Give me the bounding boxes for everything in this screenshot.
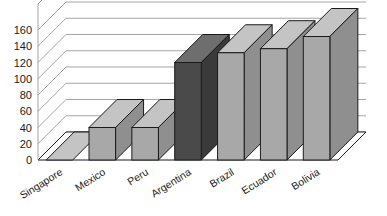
bar-chart: 020406080100120140160 SingaporeMexicoPer… bbox=[0, 0, 387, 216]
y-tick-label: 60 bbox=[20, 105, 32, 117]
y-tick-label: 120 bbox=[14, 57, 32, 69]
y-tick-label: 100 bbox=[14, 73, 32, 85]
y-tick-label: 0 bbox=[26, 154, 32, 166]
y-tick-label: 20 bbox=[20, 138, 32, 150]
y-tick-label: 40 bbox=[20, 122, 32, 134]
bar-bolivia bbox=[303, 9, 358, 161]
chart-canvas: 020406080100120140160 SingaporeMexicoPer… bbox=[0, 0, 387, 216]
y-tick-label: 140 bbox=[14, 40, 32, 52]
y-tick-label: 80 bbox=[20, 89, 32, 101]
y-tick-label: 160 bbox=[14, 24, 32, 36]
